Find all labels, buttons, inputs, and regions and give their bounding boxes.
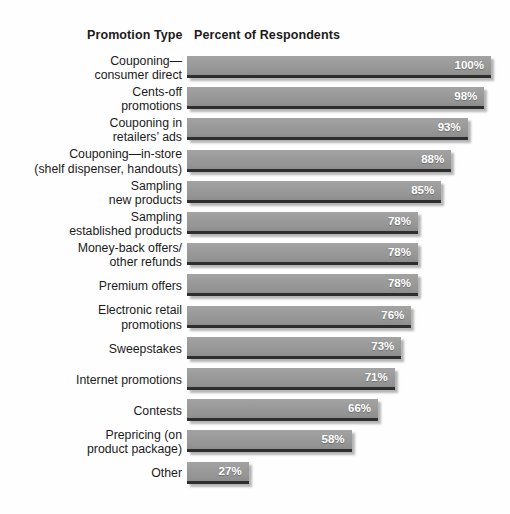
bar: 85% [187, 181, 441, 203]
bar-value-label: 58% [322, 430, 352, 449]
bar-value-label: 27% [219, 462, 249, 481]
bar-category-label: Cents-off promotions [0, 85, 182, 113]
bar: 88% [187, 150, 451, 172]
bar-container: 71% [187, 368, 395, 390]
bar-container: 27% [187, 462, 249, 484]
bar: 78% [187, 243, 418, 265]
bar-value-label: 98% [454, 87, 484, 106]
bar: 66% [187, 399, 378, 421]
bar: 27% [187, 462, 249, 484]
bar-category-label: Electronic retail promotions [0, 303, 182, 331]
bar: 71% [187, 368, 395, 390]
bar: 93% [187, 118, 468, 140]
bar-container: 78% [187, 212, 418, 234]
bar-container: 58% [187, 430, 352, 452]
bar-value-label: 73% [371, 337, 401, 356]
bar-container: 78% [187, 274, 418, 296]
bar-container: 93% [187, 118, 468, 140]
bar-category-label: Sampling established products [0, 210, 182, 238]
bar: 78% [187, 212, 418, 234]
bar-container: 73% [187, 337, 401, 359]
bar-category-label: Couponing in retailers’ ads [0, 116, 182, 144]
bar-category-label: Couponing—in-store (shelf dispenser, han… [0, 147, 182, 175]
bar-container: 76% [187, 306, 411, 328]
bar-value-label: 85% [411, 181, 441, 200]
bar-container: 100% [187, 56, 491, 78]
bar-container: 66% [187, 399, 378, 421]
bar-chart: Promotion Type Percent of Respondents Co… [0, 0, 510, 514]
bar: 76% [187, 306, 411, 328]
bar-category-label: Money-back offers/ other refunds [0, 241, 182, 269]
bar-category-label: Prepricing (on product package) [0, 428, 182, 456]
bar-value-label: 71% [365, 368, 395, 387]
bar-value-label: 76% [381, 306, 411, 325]
bar-category-label: Internet promotions [0, 373, 182, 387]
bar-category-label: Sweepstakes [0, 342, 182, 356]
bar: 100% [187, 56, 491, 78]
bar-category-label: Couponing— consumer direct [0, 54, 182, 82]
bar-value-label: 88% [421, 150, 451, 169]
bar-value-label: 78% [388, 243, 418, 262]
bar-container: 88% [187, 150, 451, 172]
bar-container: 98% [187, 87, 484, 109]
bar-value-label: 78% [388, 274, 418, 293]
bar: 58% [187, 430, 352, 452]
bar-category-label: Other [0, 466, 182, 480]
bar-value-label: 66% [348, 399, 378, 418]
bar: 78% [187, 274, 418, 296]
plot-area: Couponing— consumer direct100%Cents-off … [0, 0, 510, 514]
bar-value-label: 93% [438, 118, 468, 137]
bar: 73% [187, 337, 401, 359]
bar: 98% [187, 87, 484, 109]
bar-category-label: Sampling new products [0, 179, 182, 207]
bar-container: 78% [187, 243, 418, 265]
bar-value-label: 100% [455, 56, 491, 75]
bar-category-label: Contests [0, 404, 182, 418]
bar-category-label: Premium offers [0, 279, 182, 293]
bar-container: 85% [187, 181, 441, 203]
bar-value-label: 78% [388, 212, 418, 231]
